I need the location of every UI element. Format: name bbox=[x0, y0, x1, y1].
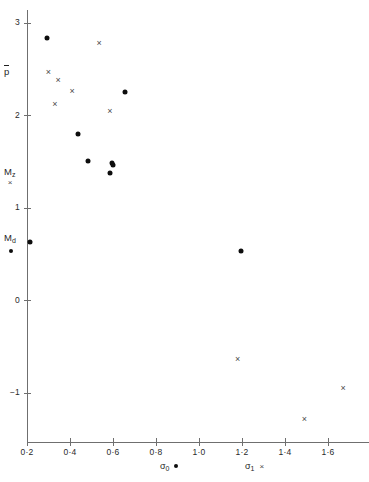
data-point-dot bbox=[86, 159, 91, 164]
x-tick-label: 1·0 bbox=[188, 448, 210, 457]
y-tick-label: 1 bbox=[0, 203, 20, 212]
x-tick-label: 1·2 bbox=[231, 448, 253, 457]
y-axis-line bbox=[27, 10, 28, 442]
y-tick bbox=[24, 300, 31, 301]
x-tick-label: 0·4 bbox=[59, 448, 81, 457]
x-tick bbox=[328, 438, 329, 446]
annotation-label: M bbox=[4, 166, 12, 177]
y-tick-label: 2 bbox=[0, 111, 20, 120]
data-point-dot bbox=[122, 89, 127, 94]
x-tick-label: 0·8 bbox=[145, 448, 167, 457]
annotation-label: p bbox=[4, 67, 9, 77]
x-tick-label: 1·4 bbox=[274, 448, 296, 457]
scatter-plot-figure: 3210−10·20·40·60·81·01·21·41·6pMzMd×σ0 σ… bbox=[0, 0, 369, 482]
x-tick bbox=[156, 438, 157, 446]
annotation-subscript: z bbox=[12, 171, 16, 178]
legend-marker-dot-md bbox=[9, 249, 13, 253]
data-point-cross bbox=[301, 416, 308, 423]
x-axis-legend-sigma1: σ1 × bbox=[245, 462, 264, 472]
y-tick-label: −1 bbox=[0, 388, 20, 397]
y-tick-label: 0 bbox=[0, 296, 20, 305]
legend-cross-icon: × bbox=[259, 462, 264, 471]
data-point-cross bbox=[45, 69, 52, 76]
y-tick bbox=[24, 208, 31, 209]
x-tick bbox=[113, 438, 114, 446]
data-point-cross bbox=[69, 87, 76, 94]
x-tick-label: 1·6 bbox=[317, 448, 339, 457]
data-point-cross bbox=[234, 356, 241, 363]
y-axis-annotation-p: p bbox=[4, 67, 9, 77]
annotation-subscript: d bbox=[12, 237, 16, 244]
x-tick bbox=[70, 438, 71, 446]
x-tick-label: 0·6 bbox=[102, 448, 124, 457]
y-tick-label: 3 bbox=[0, 18, 20, 27]
annotation-label: M bbox=[4, 232, 12, 243]
data-point-cross bbox=[106, 108, 113, 115]
x-tick bbox=[27, 438, 28, 446]
data-point-dot bbox=[111, 162, 116, 167]
data-point-dot bbox=[107, 171, 112, 176]
data-point-dot bbox=[28, 239, 33, 244]
legend-marker-cross-mz: × bbox=[8, 179, 13, 187]
data-point-cross bbox=[96, 39, 103, 46]
data-point-dot bbox=[238, 248, 243, 253]
y-axis-annotation-md: Md bbox=[4, 233, 16, 244]
y-tick bbox=[24, 115, 31, 116]
data-point-cross bbox=[340, 384, 347, 391]
data-point-cross bbox=[55, 76, 62, 83]
data-point-dot bbox=[75, 132, 80, 137]
data-point-dot bbox=[45, 36, 50, 41]
x-tick-label: 0·2 bbox=[16, 448, 38, 457]
y-axis-annotation-mz: Mz bbox=[4, 167, 15, 178]
x-tick bbox=[242, 438, 243, 446]
x-tick bbox=[199, 438, 200, 446]
x-axis-legend-sigma0: σ0 bbox=[160, 462, 178, 472]
x-axis-line bbox=[27, 442, 369, 443]
y-tick bbox=[24, 393, 31, 394]
data-point-cross bbox=[51, 100, 58, 107]
legend-dot-icon bbox=[174, 464, 178, 468]
x-tick bbox=[285, 438, 286, 446]
y-tick bbox=[24, 23, 31, 24]
